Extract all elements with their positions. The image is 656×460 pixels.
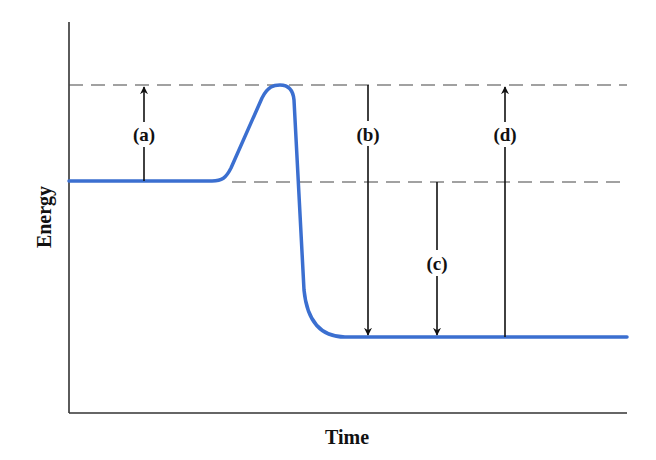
- energy-curve: [69, 85, 627, 337]
- label-c: (c): [426, 253, 447, 275]
- energy-diagram: (a) (b) (c) (d) Time Energy: [0, 0, 656, 460]
- label-d: (d): [493, 124, 516, 146]
- label-a: (a): [133, 124, 155, 146]
- y-axis-label: Energy: [33, 186, 56, 248]
- axes: [69, 22, 627, 413]
- label-b: (b): [356, 124, 379, 146]
- x-axis-label: Time: [325, 426, 369, 448]
